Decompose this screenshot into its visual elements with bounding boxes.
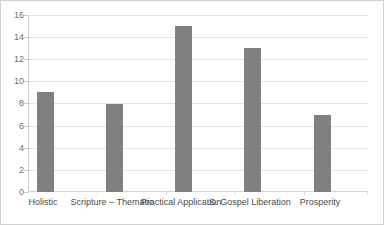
y-axis-line [28, 15, 29, 193]
y-axis-tick-labels: 16 14 12 10 8 6 4 2 0 [1, 1, 24, 225]
y-tick-mark-6 [24, 126, 28, 127]
y-tick-label-0: 0 [4, 188, 24, 197]
y-tick-label-2: 2 [4, 166, 24, 175]
y-tick-label-8: 8 [4, 99, 24, 108]
x-tick-mark-4 [304, 192, 305, 195]
y-tick-label-14: 14 [4, 33, 24, 42]
bar-holistic[interactable] [37, 92, 54, 192]
y-tick-label-4: 4 [4, 144, 24, 153]
bar-practical-application[interactable] [175, 26, 192, 192]
y-tick-mark-4 [24, 148, 28, 149]
y-tick-mark-14 [24, 37, 28, 38]
x-tick-mark-2 [166, 192, 167, 195]
y-tick-mark-16 [24, 15, 28, 16]
y-tick-label-16: 16 [4, 11, 24, 20]
x-tick-mark-1 [97, 192, 98, 195]
y-tick-mark-2 [24, 170, 28, 171]
x-tick-mark-3 [235, 192, 236, 195]
bar-scripture-thematic[interactable] [106, 104, 123, 193]
plot-area [29, 15, 368, 192]
x-label-prosperity: Prosperity [277, 197, 363, 208]
y-tick-mark-8 [24, 103, 28, 104]
bar-s-gospel-liberation[interactable] [244, 48, 261, 192]
y-tick-label-10: 10 [4, 77, 24, 86]
y-tick-mark-0 [24, 192, 28, 193]
y-tick-label-6: 6 [4, 122, 24, 131]
y-tick-mark-10 [24, 81, 28, 82]
y-tick-mark-12 [24, 59, 28, 60]
gridline-16 [29, 15, 368, 16]
gridline-10 [29, 81, 368, 82]
x-tick-mark-5 [367, 192, 368, 195]
gridline-8 [29, 103, 368, 104]
y-tick-label-12: 12 [4, 55, 24, 64]
gridline-14 [29, 37, 368, 38]
bar-chart: 16 14 12 10 8 6 4 2 0 Holistic Scripture… [0, 0, 384, 225]
bar-prosperity[interactable] [314, 115, 331, 192]
gridline-12 [29, 59, 368, 60]
